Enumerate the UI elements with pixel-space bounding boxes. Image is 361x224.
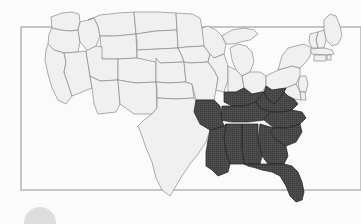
state-massachusetts xyxy=(310,48,334,55)
state-oklahoma xyxy=(156,82,194,99)
state-wyoming xyxy=(100,34,137,59)
state-connecticut xyxy=(314,55,326,61)
state-newjersey xyxy=(298,76,308,92)
state-newmexico xyxy=(118,80,157,114)
state-washington xyxy=(51,12,80,31)
state-florida xyxy=(244,164,304,202)
us-choropleth-map xyxy=(0,0,361,224)
state-maine xyxy=(324,14,342,46)
state-minnesota xyxy=(176,13,206,48)
state-southdakota xyxy=(136,30,178,50)
states-highlighted-group xyxy=(194,86,306,202)
state-arizona xyxy=(90,76,120,114)
state-newyork xyxy=(278,44,312,70)
map-canvas xyxy=(0,0,361,224)
state-rhodeisland xyxy=(327,55,331,60)
state-colorado xyxy=(118,58,156,83)
